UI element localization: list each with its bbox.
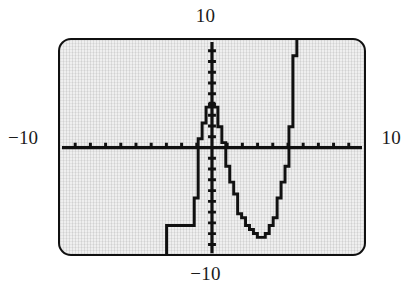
ymax-label: 10 [0, 6, 411, 25]
graph-plot-area [60, 40, 364, 255]
ymin-label: −10 [0, 264, 411, 283]
xmin-label: −10 [8, 128, 38, 147]
calculator-graph-figure: 10 −10 10 −10 [0, 0, 411, 288]
xmax-label: 10 [382, 128, 401, 147]
calculator-screen [58, 38, 366, 256]
